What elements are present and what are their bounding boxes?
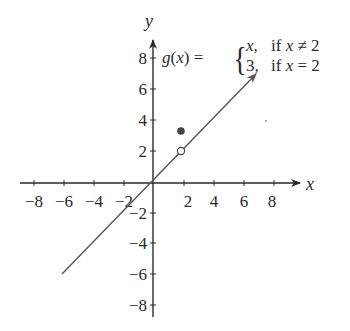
y-tick-label: −2 xyxy=(129,204,147,223)
brace: { xyxy=(234,40,247,78)
closed-point xyxy=(177,127,185,135)
case-1-condition: if x ≠ 2 xyxy=(271,36,320,55)
y-tick-label: 4 xyxy=(139,111,148,130)
x-tick-label: −4 xyxy=(85,192,104,211)
x-axis: −8 −6 −4 −2 2 4 6 8 x xyxy=(20,174,314,211)
x-tick-label: −6 xyxy=(55,192,73,211)
function-line xyxy=(62,74,256,274)
y-tick-label: −6 xyxy=(129,265,147,284)
case-2-value: 3, xyxy=(246,56,259,75)
piecewise-definition: g(x) = { x, if x ≠ 2 3, if x = 2 xyxy=(162,36,320,78)
case-2-condition: if x = 2 xyxy=(271,56,320,75)
x-tick-label: −8 xyxy=(25,192,43,211)
y-tick-label: 6 xyxy=(139,80,148,99)
case-1-value: x, xyxy=(245,36,258,55)
equation-lhs: g(x) = xyxy=(162,48,203,67)
x-tick-label: 2 xyxy=(184,192,193,211)
y-tick-label: −8 xyxy=(129,296,147,315)
y-axis: 8 6 4 2 −2 −4 −6 −8 y xyxy=(129,11,156,317)
x-tick-label: 8 xyxy=(268,192,277,211)
y-tick-label: 8 xyxy=(139,49,148,68)
y-tick-label: −4 xyxy=(129,234,148,253)
y-tick-label: 2 xyxy=(139,142,148,161)
open-point-hole xyxy=(177,147,184,154)
function-name: g xyxy=(162,48,171,67)
x-tick-label: 6 xyxy=(240,192,249,211)
scan-speck xyxy=(265,120,267,122)
x-axis-label: x xyxy=(305,174,314,194)
x-tick-label: 4 xyxy=(210,192,219,211)
y-axis-label: y xyxy=(143,11,153,31)
function-graph: −8 −6 −4 −2 2 4 6 8 x 8 6 4 2 −2 −4 −6 −… xyxy=(0,0,350,331)
